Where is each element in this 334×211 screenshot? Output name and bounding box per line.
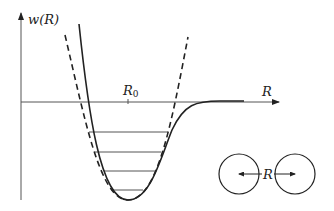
y-axis-label: w(R): [28, 12, 59, 27]
separation-label: R: [262, 167, 273, 182]
x-axis-label: R: [261, 84, 272, 99]
r0-label: R0: [122, 83, 139, 99]
potential-energy-diagram: w(R) R R0 R: [0, 0, 334, 211]
